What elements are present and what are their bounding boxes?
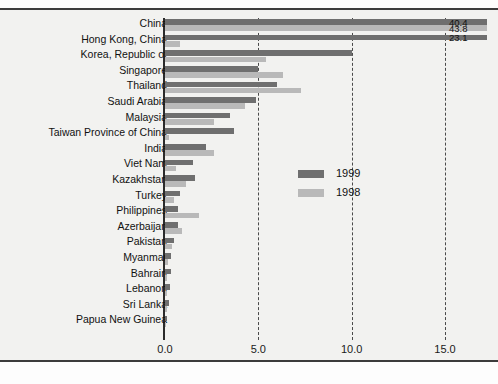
category-label: Pakistan <box>7 236 167 247</box>
category-label: Sri Lanka <box>7 299 167 310</box>
bar-1999 <box>165 253 171 259</box>
bar-1999 <box>165 82 277 88</box>
bar-1998 <box>165 259 168 265</box>
category-label: Lebanon <box>7 283 167 294</box>
chart-row: Azerbaijan <box>0 221 498 237</box>
bar-1999 <box>165 160 193 166</box>
chart-row: India <box>0 143 498 159</box>
bar-1998 <box>165 213 199 219</box>
bar-1998 <box>165 25 487 31</box>
bar-1999 <box>165 300 169 306</box>
bar-1998 <box>165 322 166 328</box>
chart-row: China <box>0 18 498 34</box>
category-label: Turkey <box>7 190 167 201</box>
bar-1999 <box>165 175 195 181</box>
bar-1999 <box>165 316 167 322</box>
bar-1999 <box>165 284 170 290</box>
legend-swatch-1999 <box>298 170 324 178</box>
bar-1998 <box>165 72 283 78</box>
bar-1998 <box>165 41 180 47</box>
legend-label: 1998 <box>336 186 360 198</box>
chart-row: Taiwan Province of China <box>0 127 498 143</box>
bar-1999 <box>165 191 180 197</box>
bar-1998 <box>165 150 214 156</box>
chart-row: Papua New Guinea <box>0 314 498 330</box>
bar-1999 <box>165 50 352 56</box>
bar-rows-group: ChinaHong Kong, ChinaKorea, Republic ofS… <box>0 18 498 340</box>
category-label: Kazakhstan <box>7 174 167 185</box>
bar-1998 <box>165 103 245 109</box>
category-label: Viet Nam <box>7 158 167 169</box>
chart-row: Bahrain <box>0 268 498 284</box>
bar-1998 <box>165 135 169 141</box>
chart-row: Viet Nam <box>0 158 498 174</box>
bar-1998 <box>165 57 266 63</box>
chart-row: Pakistan <box>0 236 498 252</box>
legend-swatch-1998 <box>298 189 324 197</box>
chart-row: Korea, Republic of <box>0 49 498 65</box>
category-label: Philippines <box>7 205 167 216</box>
bar-chart: 0.05.010.015.0 ChinaHong Kong, ChinaKore… <box>0 10 498 360</box>
category-label: Korea, Republic of <box>7 49 167 60</box>
chart-row: Myanmar <box>0 252 498 268</box>
bar-1998 <box>165 244 172 250</box>
bar-1998 <box>165 166 176 172</box>
bar-1999 <box>165 113 230 119</box>
category-label: Azerbaijan <box>7 221 167 232</box>
bar-1998 <box>165 275 167 281</box>
chart-row: Philippines <box>0 205 498 221</box>
chart-row: Thailand <box>0 80 498 96</box>
category-label: Papua New Guinea <box>7 314 167 325</box>
x-tick-label: 15.0 <box>434 343 455 355</box>
chart-row: Malaysia <box>0 112 498 128</box>
category-label: Taiwan Province of China <box>7 127 167 138</box>
bar-1998 <box>165 119 214 125</box>
bar-1998 <box>165 306 167 312</box>
x-tick-label: 0.0 <box>157 343 172 355</box>
chart-row: Hong Kong, China <box>0 34 498 50</box>
bar-value-label: 23.1 <box>449 32 468 43</box>
category-label: India <box>7 143 167 154</box>
chart-row: Sri Lanka <box>0 299 498 315</box>
x-tick-label: 10.0 <box>341 343 362 355</box>
bar-1998 <box>165 291 167 297</box>
bar-1999 <box>165 97 256 103</box>
legend-label: 1999 <box>336 167 360 179</box>
bar-1999 <box>165 269 171 275</box>
bar-1999 <box>165 128 234 134</box>
bar-1999 <box>165 144 206 150</box>
chart-row: Lebanon <box>0 283 498 299</box>
chart-row: Saudi Arabia <box>0 96 498 112</box>
bar-1998 <box>165 181 186 187</box>
bar-1998 <box>165 88 301 94</box>
bar-1999 <box>165 19 487 25</box>
category-label: Hong Kong, China <box>7 34 167 45</box>
category-label: Saudi Arabia <box>7 96 167 107</box>
chart-page: 0.05.010.015.0 ChinaHong Kong, ChinaKore… <box>0 0 498 384</box>
category-label: Myanmar <box>7 252 167 263</box>
category-label: Singapore <box>7 65 167 76</box>
bar-1998 <box>165 228 182 234</box>
category-label: Bahrain <box>7 268 167 279</box>
category-label: China <box>7 18 167 29</box>
category-label: Malaysia <box>7 112 167 123</box>
bar-1998 <box>165 197 174 203</box>
bar-1999 <box>165 222 178 228</box>
bar-1999 <box>165 206 178 212</box>
plot-area-background: 0.05.010.015.0 ChinaHong Kong, ChinaKore… <box>0 10 498 360</box>
chart-row: Kazakhstan <box>0 174 498 190</box>
chart-row: Singapore <box>0 65 498 81</box>
bar-1999 <box>165 66 258 72</box>
bar-1999 <box>165 238 174 244</box>
chart-row: Turkey <box>0 190 498 206</box>
bottom-divider-rule <box>0 360 498 362</box>
category-label: Thailand <box>7 80 167 91</box>
x-tick-label: 5.0 <box>251 343 266 355</box>
bar-1999 <box>165 35 487 41</box>
